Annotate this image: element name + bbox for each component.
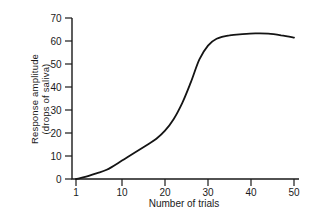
x-tick-label: 1 <box>73 187 79 198</box>
y-tick-label: 10 <box>50 151 62 162</box>
y-tick-label: 40 <box>50 82 62 93</box>
x-axis-title: Number of trials <box>149 198 220 209</box>
y-tick-label: 70 <box>50 13 62 24</box>
y-tick-label: 0 <box>56 174 62 185</box>
y-axis-title: Response amplitude (drops of saliva) <box>29 54 51 144</box>
y-tick-label: 30 <box>50 105 62 116</box>
x-tick-label: 50 <box>288 187 300 198</box>
x-tick-label: 20 <box>159 187 171 198</box>
y-tick-label: 60 <box>50 36 62 47</box>
y-tick-label: 20 <box>50 128 62 139</box>
y-axis-title-line1: Response amplitude <box>29 54 40 144</box>
y-tick-label: 50 <box>50 59 62 70</box>
pavlovian-learning-curve-figure: 01020304050607011020304050 Response ampl… <box>0 0 314 224</box>
x-tick-label: 30 <box>202 187 214 198</box>
axes-lines <box>72 18 299 179</box>
x-tick-label: 40 <box>245 187 257 198</box>
x-tick-label: 10 <box>116 187 128 198</box>
response-curve <box>76 33 294 179</box>
y-axis-title-line2: (drops of saliva) <box>40 64 51 135</box>
